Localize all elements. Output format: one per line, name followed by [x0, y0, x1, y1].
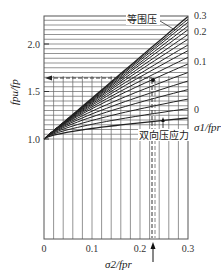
up-arrow-icon	[151, 242, 156, 249]
x-tick-label: 0.2	[134, 243, 147, 254]
right-tick-label: 0.1	[194, 56, 207, 67]
right-axis-label: σ1/fpr	[194, 121, 221, 133]
x-axis-label: σ2/fpr	[105, 258, 133, 270]
chart: 00.10.20.31.01.52.00.30.20.10 等围压 双向压应力 …	[0, 0, 221, 278]
right-tick-label: 0.3	[194, 10, 207, 21]
stress-curve	[44, 64, 188, 139]
y-tick-label: 1.0	[28, 134, 41, 145]
annotation-biaxial: 双向压应力	[139, 129, 189, 141]
x-tick-label: 0	[42, 243, 47, 254]
y-tick-label: 1.5	[28, 86, 41, 97]
marker-point	[151, 78, 155, 82]
x-tick-label: 0.3	[182, 243, 195, 254]
up-arrow-biaxial-icon	[161, 117, 164, 122]
y-tick-label: 2.0	[28, 39, 41, 50]
x-tick-label: 0.1	[86, 243, 99, 254]
right-tick-label: 0	[194, 104, 199, 115]
annotation-leader-equal	[160, 21, 175, 30]
left-arrow-icon	[45, 76, 52, 81]
right-tick-label: 0.2	[194, 26, 207, 37]
y-axis-label: fpu/fp	[8, 79, 20, 105]
annotation-equal-pressure: 等围压	[127, 13, 157, 25]
